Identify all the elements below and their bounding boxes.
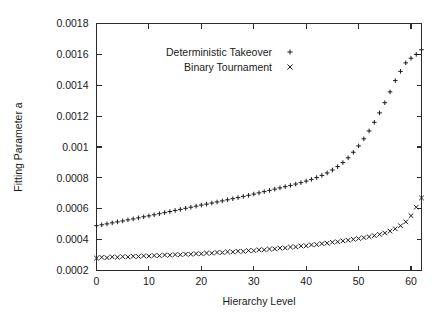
- y-tick-label: 0.0004: [56, 233, 88, 245]
- x-axis-title: Hierarchy Level: [223, 295, 296, 307]
- x-tick-label: 60: [405, 275, 417, 287]
- legend-label: Binary Tournament: [184, 61, 272, 73]
- y-tick-label: 0.0006: [56, 202, 88, 214]
- y-tick-label: 0.0018: [56, 17, 88, 29]
- scatter-plot: 0.00020.00040.00060.00080.0010.00120.001…: [0, 0, 440, 324]
- y-tick-label: 0.0002: [56, 264, 88, 276]
- y-tick-label: 0.0016: [56, 48, 88, 60]
- y-tick-label: 0.0008: [56, 172, 88, 184]
- x-tick-label: 40: [300, 275, 312, 287]
- chart-figure: 0.00020.00040.00060.00080.0010.00120.001…: [0, 0, 440, 324]
- x-tick-label: 10: [143, 275, 155, 287]
- y-tick-label: 0.0014: [56, 79, 88, 91]
- legend-label: Deterministic Takeover: [166, 46, 273, 58]
- x-tick-label: 30: [248, 275, 260, 287]
- series-deterministic-takeover: [94, 47, 424, 228]
- y-tick-label: 0.001: [62, 141, 88, 153]
- x-tick-label: 0: [94, 275, 100, 287]
- x-tick-label: 20: [195, 275, 207, 287]
- y-axis-title: Fitting Parameter a: [12, 102, 24, 191]
- series-binary-tournament: [94, 196, 424, 261]
- chart-legend: Deterministic TakeoverBinary Tournament: [166, 46, 293, 73]
- x-tick-label: 50: [353, 275, 365, 287]
- y-tick-label: 0.0012: [56, 110, 88, 122]
